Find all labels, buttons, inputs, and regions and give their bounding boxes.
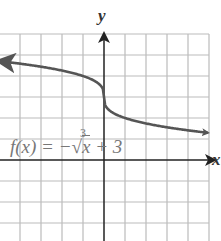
x-axis-label: x — [212, 150, 221, 170]
function-text: f(x) = − — [10, 136, 72, 157]
function-tail: + 3 — [90, 136, 122, 157]
function-graph — [0, 0, 221, 241]
y-axis-label: y — [98, 6, 106, 26]
radical-icon: √ — [72, 136, 82, 157]
function-label: f(x) = −√x + 3 — [10, 136, 122, 158]
